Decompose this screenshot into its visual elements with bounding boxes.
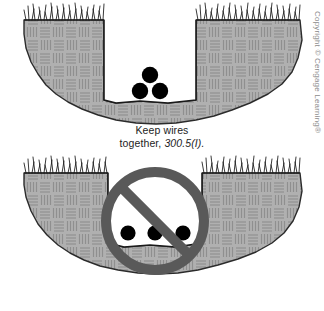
grass-icon: [24, 3, 300, 20]
trench-wire-diagram: Keep wires together, 300.5(I).: [0, 0, 324, 311]
wire-circle-icon: [132, 83, 148, 99]
wire-circle-icon: [120, 225, 135, 240]
panel-keep-wires-together: Keep wires together, 300.5(I).: [0, 0, 324, 155]
caption-correct-code: 300.5(I).: [164, 137, 204, 149]
copyright-notice: Copyright © Cengage Learning®: [311, 11, 323, 161]
caption-correct-line2: together, 300.5(I).: [0, 137, 324, 150]
trench-illustration-incorrect: [0, 155, 324, 280]
trench-illustration-correct: [0, 0, 324, 125]
wire-circle-icon: [152, 83, 168, 99]
wire-circle-icon: [142, 67, 158, 83]
trench-void-correct: [104, 20, 196, 103]
caption-correct-line2-prefix: together,: [120, 137, 165, 149]
panel-do-not-keep-wires-separated: Do not keep wires separated.: [0, 155, 324, 311]
caption-correct: Keep wires together, 300.5(I).: [0, 124, 324, 149]
caption-correct-line1: Keep wires: [0, 124, 324, 137]
